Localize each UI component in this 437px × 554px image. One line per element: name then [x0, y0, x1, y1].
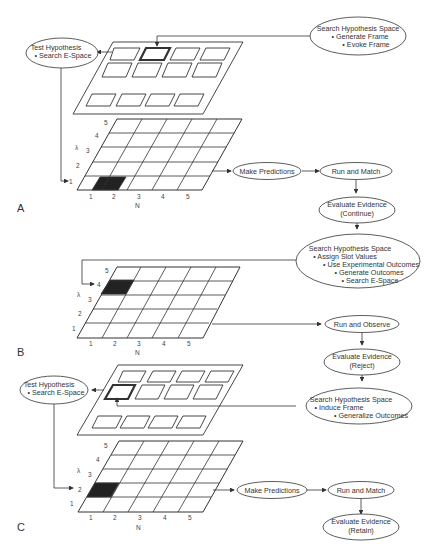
node-make-predictions-a: Make Predictions [233, 163, 301, 180]
node-search-hypothesis-b: Search Hypothesis Space • Assign Slot Va… [296, 234, 420, 288]
svg-text:• Generalize Outcomes: • Generalize Outcomes [334, 411, 408, 420]
node-make-predictions-c: Make Predictions [237, 482, 307, 499]
svg-text:3: 3 [138, 514, 142, 521]
node-search-hypothesis-c: Search Hypothesis Space • Induce Frame •… [306, 388, 412, 424]
svg-text:Make Predictions: Make Predictions [239, 167, 295, 176]
panel-label-b: B [17, 346, 24, 358]
axis-label-lambda: λ [77, 467, 81, 474]
svg-text:1: 1 [89, 193, 93, 200]
svg-text:4: 4 [161, 193, 165, 200]
svg-text:• Search E-Space: • Search E-Space [35, 51, 92, 60]
svg-text:• Search E-Space: • Search E-Space [28, 388, 85, 397]
svg-text:1: 1 [70, 500, 74, 507]
svg-text:2: 2 [76, 162, 80, 169]
svg-text:5: 5 [104, 119, 108, 126]
frame-plane-c [77, 365, 243, 435]
svg-text:4: 4 [97, 281, 101, 288]
svg-text:4: 4 [96, 456, 100, 463]
node-test-hypothesis-a: Test Hypothesis • Search E-Space [26, 38, 98, 68]
svg-text:4: 4 [162, 340, 166, 347]
svg-text:1: 1 [72, 325, 76, 332]
svg-text:Make Predictions: Make Predictions [244, 486, 300, 495]
shaded-cell-a [92, 177, 126, 190]
svg-text:4: 4 [163, 514, 167, 521]
svg-text:(Retain): (Retain) [348, 526, 374, 535]
svg-text:5: 5 [105, 267, 109, 274]
svg-text:2: 2 [113, 340, 117, 347]
frame-plane-a [73, 42, 243, 114]
svg-text:(Reject): (Reject) [349, 361, 374, 370]
node-evaluate-evidence-a: Evaluate Evidence (Continue) [319, 197, 395, 223]
svg-text:Evaluate Evidence: Evaluate Evidence [327, 200, 387, 209]
svg-text:5: 5 [188, 514, 192, 521]
svg-text:1: 1 [89, 340, 93, 347]
node-run-and-match-a: Run and Match [320, 163, 392, 180]
node-test-hypothesis-c: Test Hypothesis • Search E-Space [20, 376, 88, 404]
axis-label-n: N [135, 202, 140, 209]
svg-text:5: 5 [104, 442, 108, 449]
svg-text:• Evoke Frame: • Evoke Frame [342, 40, 389, 49]
node-evaluate-evidence-b: Evaluate Evidence (Reject) [324, 349, 400, 375]
svg-text:2: 2 [78, 486, 82, 493]
panel-c: 1 2 3 4 5 N 1 2 3 4 5 λ Search Hypothesi… [17, 365, 412, 540]
panel-b: 1 2 3 4 5 N 1 2 3 4 5 λ Search Hypothesi… [17, 234, 420, 381]
svg-text:2: 2 [78, 310, 82, 317]
grid-a-ticks: 1 2 3 4 5 N 1 2 3 4 5 λ [69, 119, 190, 209]
shaded-cell-c [87, 483, 119, 497]
panel-label-c: C [17, 521, 25, 533]
selected-frame-c [105, 385, 135, 399]
panel-label-a: A [17, 202, 25, 214]
diagram-canvas: 1 2 3 4 5 N 1 2 3 4 5 λ Search Hypothesi… [0, 0, 437, 554]
node-search-hypothesis-a: Search Hypothesis Space • Generate Frame… [310, 17, 406, 55]
svg-text:3: 3 [137, 193, 141, 200]
svg-text:1: 1 [89, 514, 93, 521]
svg-text:5: 5 [186, 193, 190, 200]
svg-text:Run and Observe: Run and Observe [334, 320, 390, 329]
svg-text:3: 3 [88, 471, 92, 478]
svg-text:3: 3 [88, 296, 92, 303]
svg-text:3: 3 [137, 340, 141, 347]
svg-text:3: 3 [86, 147, 90, 154]
svg-text:Evaluate Evidence: Evaluate Evidence [331, 517, 391, 526]
grid-a [77, 119, 242, 190]
svg-text:Run and Match: Run and Match [337, 486, 386, 495]
panel-a: 1 2 3 4 5 N 1 2 3 4 5 λ Search Hypothesi… [17, 17, 406, 229]
svg-text:2: 2 [112, 193, 116, 200]
node-run-and-observe-b: Run and Observe [325, 316, 399, 333]
grid-c [78, 441, 243, 512]
svg-text:Run and Match: Run and Match [332, 167, 381, 176]
axis-label-n: N [135, 349, 140, 356]
svg-text:Evaluate Evidence: Evaluate Evidence [332, 352, 392, 361]
axis-label-lambda: λ [77, 291, 81, 298]
axis-label-n: N [136, 524, 141, 531]
grid-b [77, 267, 240, 338]
node-run-and-match-c: Run and Match [328, 482, 394, 499]
svg-text:5: 5 [187, 340, 191, 347]
node-evaluate-evidence-c: Evaluate Evidence (Retain) [323, 514, 399, 540]
svg-text:2: 2 [113, 514, 117, 521]
svg-text:1: 1 [69, 178, 73, 185]
svg-text:• Search E-Space: • Search E-Space [342, 276, 399, 285]
svg-text:(Continue): (Continue) [340, 209, 374, 218]
svg-text:4: 4 [95, 132, 99, 139]
axis-label-lambda: λ [75, 144, 79, 151]
selected-frame-a [140, 48, 170, 60]
